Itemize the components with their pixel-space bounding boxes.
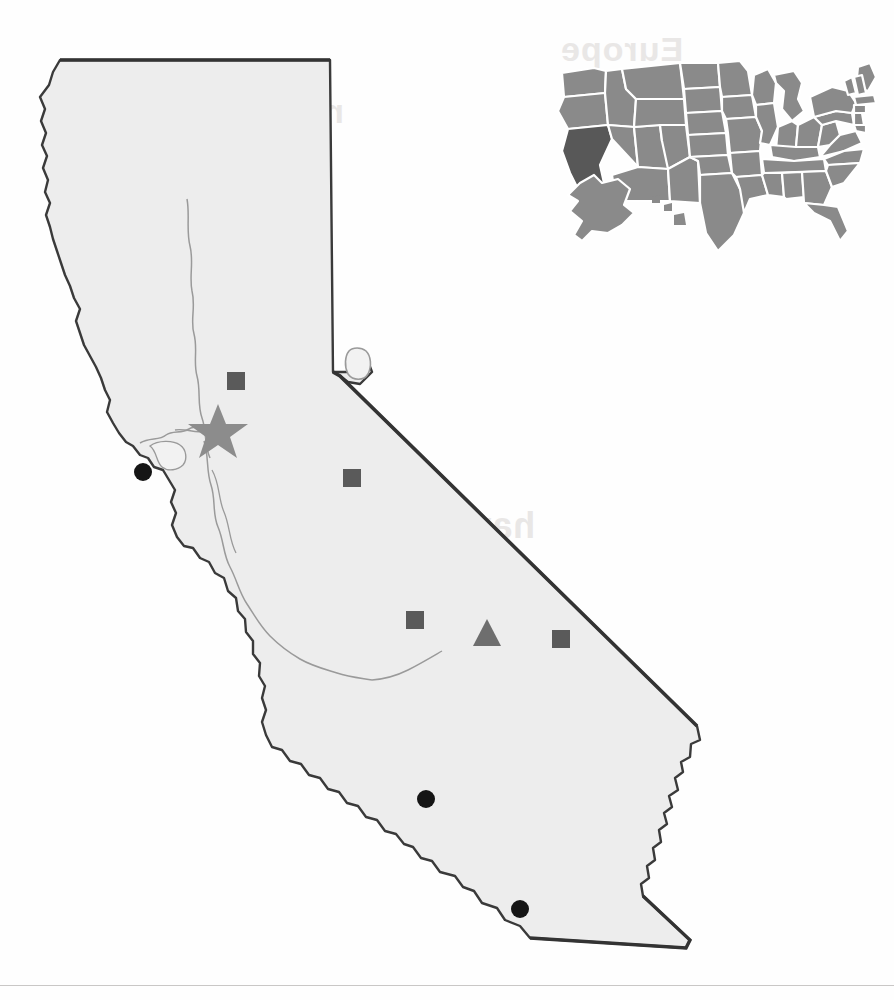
- state-north-dakota: [680, 63, 720, 89]
- marker-square-city[interactable]: [343, 469, 361, 487]
- marker-square-city[interactable]: [552, 630, 570, 648]
- state-minnesota: [718, 61, 752, 97]
- state-new-jersey: [854, 113, 864, 125]
- state-montana: [622, 63, 684, 99]
- state-alaska: [568, 175, 634, 241]
- marker-circle-port[interactable]: [417, 790, 435, 808]
- state-nebraska: [686, 111, 726, 135]
- state-connecticut: [854, 105, 866, 113]
- state-florida: [804, 203, 848, 241]
- state-arkansas: [730, 151, 762, 177]
- marker-square-city[interactable]: [406, 611, 424, 629]
- state-alabama: [782, 172, 804, 199]
- marker-circle-port[interactable]: [511, 900, 529, 918]
- state-south-carolina: [826, 163, 860, 187]
- state-kansas: [688, 133, 728, 157]
- state-kentucky: [770, 145, 820, 161]
- lake-tahoe: [345, 348, 370, 379]
- marker-square-city[interactable]: [227, 372, 245, 390]
- state-massachusetts: [854, 95, 876, 105]
- us-inset-map[interactable]: [548, 55, 888, 275]
- state-oregon: [558, 93, 608, 129]
- state-wisconsin: [752, 69, 776, 105]
- state-michigan: [774, 71, 804, 121]
- state-missouri: [726, 117, 762, 153]
- marker-circle-port[interactable]: [134, 463, 152, 481]
- map-page: may be a region Europe have is where ove…: [0, 0, 894, 1000]
- state-maryland: [854, 125, 866, 133]
- state-iowa: [722, 95, 756, 119]
- state-south-dakota: [684, 87, 722, 113]
- state-wyoming: [634, 99, 686, 127]
- bottom-divider-rule: [0, 985, 894, 986]
